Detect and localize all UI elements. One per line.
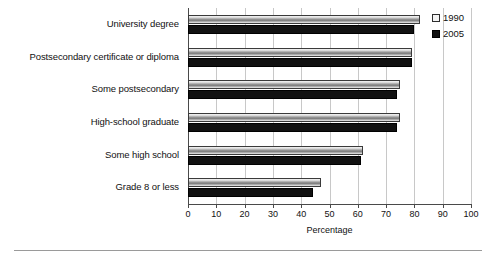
bar-2005-5: [188, 156, 361, 165]
x-tick-label: 50: [324, 209, 334, 219]
bottom-divider: [14, 250, 482, 251]
bar-group: [188, 106, 471, 139]
bar-2005-3: [188, 90, 397, 99]
category-label: Some postsecondary: [0, 73, 183, 106]
legend-label: 2005: [443, 28, 464, 39]
bar-groups: [188, 8, 471, 204]
x-tick: [386, 204, 387, 208]
x-tick-label: 90: [438, 209, 448, 219]
x-tick-label: 70: [381, 209, 391, 219]
bar-2005-1: [188, 25, 414, 34]
legend-item-1990: 1990: [432, 12, 464, 23]
bar-group: [188, 139, 471, 172]
x-tick-label: 30: [268, 209, 278, 219]
category-label: Grade 8 or less: [0, 171, 183, 204]
legend-item-2005: 2005: [432, 28, 464, 39]
x-tick: [216, 204, 217, 208]
x-tick: [358, 204, 359, 208]
x-tick-label: 20: [240, 209, 250, 219]
x-tick: [273, 204, 274, 208]
legend-swatch-icon: [432, 30, 440, 38]
chart-legend: 1990 2005: [432, 12, 464, 39]
x-tick-label: 10: [211, 209, 221, 219]
x-axis-tick-labels: 0102030405060708090100: [188, 209, 471, 223]
bar-2005-2: [188, 58, 412, 67]
category-axis-labels: University degree Postsecondary certific…: [0, 8, 183, 204]
bar-2005-6: [188, 188, 313, 197]
category-label: Some high school: [0, 139, 183, 172]
x-tick-label: 0: [185, 209, 190, 219]
x-tick: [301, 204, 302, 208]
chart-figure: University degree Postsecondary certific…: [0, 0, 496, 259]
bar-group: [188, 171, 471, 204]
bar-1990-6: [188, 178, 321, 187]
category-label: High-school graduate: [0, 106, 183, 139]
x-tick-label: 60: [353, 209, 363, 219]
category-label: Postsecondary certificate or diploma: [0, 41, 183, 74]
x-tick: [245, 204, 246, 208]
bar-1990-1: [188, 15, 420, 24]
x-axis-title: Percentage: [188, 225, 471, 235]
x-tick: [443, 204, 444, 208]
legend-swatch-icon: [432, 14, 440, 22]
x-tick: [471, 204, 472, 208]
legend-label: 1990: [443, 12, 464, 23]
bar-group: [188, 41, 471, 74]
bar-1990-2: [188, 48, 412, 57]
bar-group: [188, 73, 471, 106]
bar-2005-4: [188, 123, 397, 132]
x-tick-label: 40: [296, 209, 306, 219]
category-label: University degree: [0, 8, 183, 41]
x-tick-label: 100: [463, 209, 478, 219]
bar-1990-5: [188, 146, 363, 155]
plot-area: [188, 8, 471, 204]
x-tick: [188, 204, 189, 208]
x-tick-label: 80: [409, 209, 419, 219]
bar-group: [188, 8, 471, 41]
x-tick: [330, 204, 331, 208]
x-tick: [414, 204, 415, 208]
gridline: [471, 8, 472, 204]
bar-1990-3: [188, 80, 400, 89]
bar-1990-4: [188, 113, 400, 122]
